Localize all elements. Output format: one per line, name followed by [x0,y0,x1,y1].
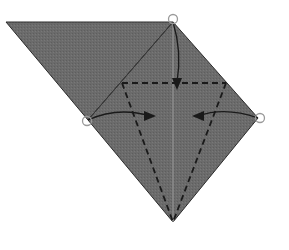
origami-diagram [0,0,289,250]
diagram-canvas [0,0,289,250]
